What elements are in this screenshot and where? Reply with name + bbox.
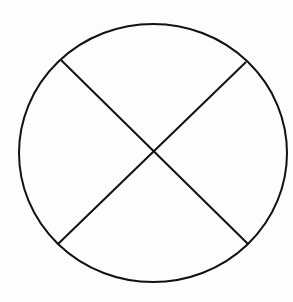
diagram-canvas bbox=[0, 0, 293, 302]
divided-circle-diagram bbox=[0, 0, 293, 302]
diagonal-line-top-right-to-bottom-left bbox=[58, 62, 246, 244]
